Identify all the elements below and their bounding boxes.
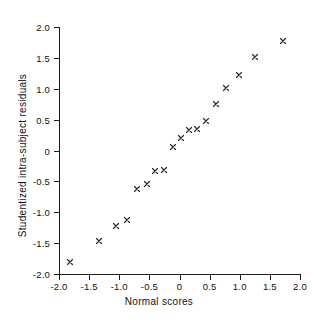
y-tick-label: -2.0 [33,269,50,280]
y-tick-label: 1.0 [36,83,50,94]
x-tick-label: -1.0 [111,281,128,292]
x-tick-label: 1.5 [263,281,277,292]
scatter-point-x-marker-icon [203,118,210,125]
x-tick-label: -1.5 [81,281,98,292]
y-tick [54,151,59,152]
scatter-point-x-marker-icon [134,185,141,192]
scatter-point-x-marker-icon [178,135,185,142]
y-tick [54,120,59,121]
x-tick [89,275,90,280]
y-tick-label: 2.0 [36,22,50,33]
scatter-point-x-marker-icon [169,144,176,151]
y-tick [54,243,59,244]
scatter-point-x-marker-icon [143,181,150,188]
x-tick-label: 0 [177,281,182,292]
x-tick [300,275,301,280]
scatter-point-x-marker-icon [212,101,219,108]
x-tick-label: 1.0 [233,281,247,292]
x-tick-label: -2.0 [50,281,67,292]
x-tick-label: 0.5 [203,281,217,292]
y-tick [54,274,59,275]
y-tick-label: 0.5 [36,114,50,125]
scatter-point-x-marker-icon [66,258,73,265]
scatter-point-x-marker-icon [193,125,200,132]
scatter-point-x-marker-icon [113,223,120,230]
x-tick [59,275,60,280]
y-tick [54,181,59,182]
x-tick [210,275,211,280]
scatter-point-x-marker-icon [222,85,229,92]
x-tick [119,275,120,280]
y-tick-label: -1.5 [33,238,50,249]
y-tick [54,89,59,90]
x-tick-label: 2.0 [293,281,307,292]
x-axis-title: Normal scores [0,296,318,307]
y-tick [54,212,59,213]
scatter-point-x-marker-icon [152,167,159,174]
scatter-point-x-marker-icon [95,238,102,245]
y-tick-label: -0.5 [33,176,50,187]
y-tick-label: 1.5 [36,52,50,63]
y-tick-label: 0 [45,145,50,156]
y-axis-line [59,27,60,275]
scatter-point-x-marker-icon [186,126,193,133]
x-tick [180,275,181,280]
scatter-point-x-marker-icon [280,37,287,44]
scatter-point-x-marker-icon [124,217,131,224]
x-tick [240,275,241,280]
qq-plot-figure: -2.0-1.5-1.0-0.500.51.01.52.0 2.01.51.00… [0,0,318,325]
scatter-point-x-marker-icon [251,53,258,60]
y-axis-title: Studentized intra-subject residuals [17,36,28,276]
y-tick-label: -1.0 [33,207,50,218]
scatter-point-x-marker-icon [161,166,168,173]
x-tick [149,275,150,280]
x-tick [270,275,271,280]
y-tick [54,58,59,59]
scatter-point-x-marker-icon [236,72,243,79]
x-tick-label: -0.5 [141,281,158,292]
y-tick [54,27,59,28]
